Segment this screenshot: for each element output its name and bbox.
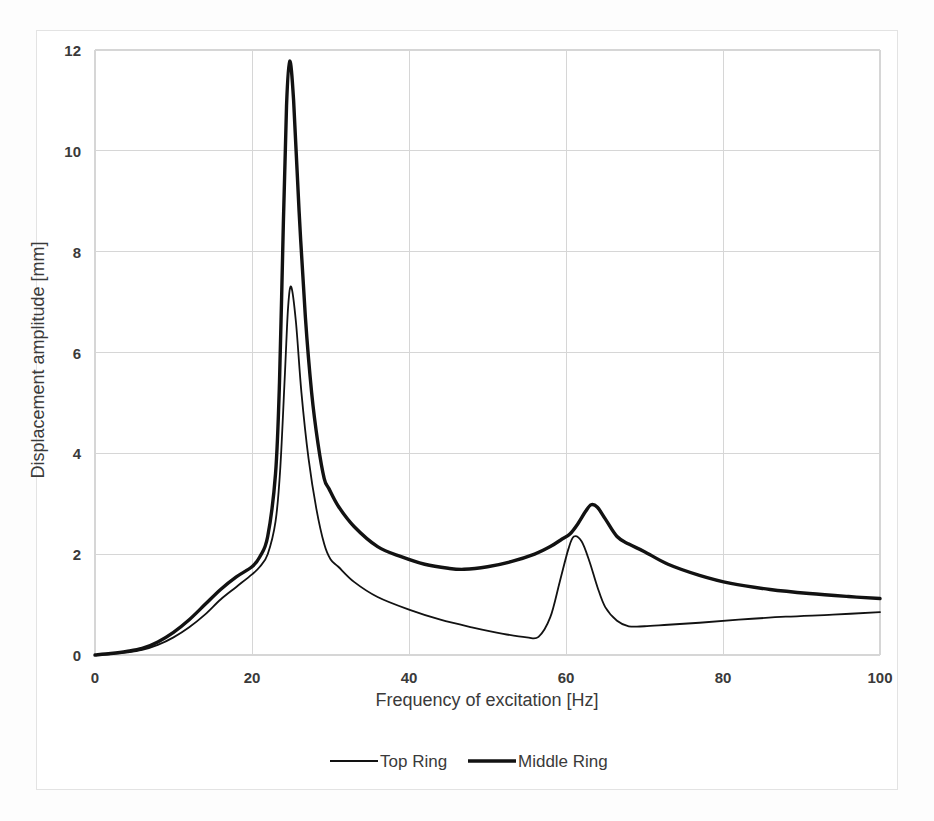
x-tick-label: 20 [244,669,261,686]
y-tick-label: 2 [73,546,81,563]
y-axis-tick-labels: 024681012 [64,42,81,664]
x-tick-label: 100 [867,669,892,686]
chart-legend: Top RingMiddle Ring [330,752,608,771]
legend-label-top-ring: Top Ring [380,752,447,771]
figure-container: 020406080100 024681012 Frequency of exci… [0,0,934,821]
y-tick-label: 6 [73,345,81,362]
y-tick-label: 12 [64,42,81,59]
x-tick-label: 60 [558,669,575,686]
x-axis-title: Frequency of excitation [Hz] [375,690,598,710]
x-tick-label: 80 [715,669,732,686]
series-lines [95,61,880,655]
series-line-top-ring [95,287,880,655]
series-line-middle-ring [95,61,880,655]
y-tick-label: 0 [73,647,81,664]
y-tick-label: 10 [64,143,81,160]
legend-label-middle-ring: Middle Ring [518,752,608,771]
y-tick-label: 4 [73,445,82,462]
x-tick-label: 0 [91,669,99,686]
gridlines [95,50,880,655]
y-axis-title: Displacement amplitude [mm] [28,241,48,478]
line-chart: 020406080100 024681012 Frequency of exci… [0,0,934,821]
x-axis-tick-labels: 020406080100 [91,669,893,686]
x-tick-label: 40 [401,669,418,686]
y-tick-label: 8 [73,244,81,261]
